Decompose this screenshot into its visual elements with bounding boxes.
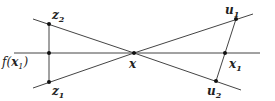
line-x-u2 [134, 53, 241, 90]
point-f-x1 [47, 51, 51, 55]
point-x1 [223, 51, 227, 55]
point-u2 [214, 79, 218, 83]
label-f-x1: f(x1) [1, 55, 28, 71]
label-u2: u2 [207, 84, 222, 100]
point-x [132, 51, 136, 55]
segment-u1-u2 [216, 19, 236, 81]
point-z2 [47, 22, 51, 26]
label-x: x [128, 57, 137, 71]
point-z1 [47, 80, 51, 84]
label-z2: z2 [51, 8, 65, 24]
diagram-canvas: z2 f(x1) z1 x u1 x1 u2 [0, 0, 275, 101]
label-x1: x1 [228, 57, 242, 73]
label-z1: z1 [51, 84, 64, 100]
label-u1: u1 [225, 3, 239, 19]
